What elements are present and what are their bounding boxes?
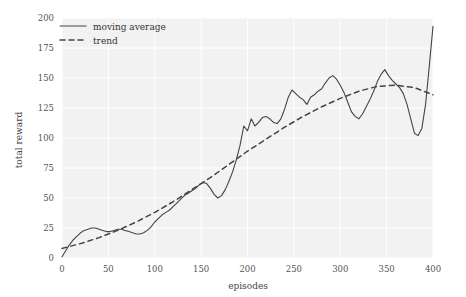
y-tick-label: 150: [38, 73, 54, 83]
y-tick-label: 75: [43, 163, 54, 173]
x-tick-label: 100: [147, 264, 163, 274]
x-tick-label: 250: [286, 264, 302, 274]
x-tick-label: 350: [379, 264, 395, 274]
y-tick-label: 175: [38, 43, 54, 53]
y-tick-label: 25: [43, 223, 54, 233]
reward-line-chart: 050100150200250300350400 025507510012515…: [0, 0, 466, 297]
y-tick-label: 50: [43, 193, 54, 203]
x-tick-label: 50: [103, 264, 114, 274]
y-axis-tick-labels: 0255075100125150175200: [38, 13, 54, 263]
chart-figure: 050100150200250300350400 025507510012515…: [0, 0, 466, 297]
x-tick-label: 150: [193, 264, 209, 274]
legend-label: moving average: [93, 22, 166, 32]
x-tick-label: 400: [425, 264, 441, 274]
x-tick-label: 0: [59, 264, 64, 274]
y-tick-label: 125: [38, 103, 54, 113]
x-tick-label: 300: [332, 264, 348, 274]
x-axis-tick-labels: 050100150200250300350400: [59, 264, 441, 274]
y-tick-label: 100: [38, 133, 54, 143]
legend-label: trend: [93, 36, 118, 46]
x-tick-label: 200: [239, 264, 255, 274]
x-axis-title: episodes: [228, 281, 268, 291]
y-axis-title: total reward: [14, 112, 24, 169]
y-tick-label: 0: [49, 253, 54, 263]
plot-area-wrapper: 050100150200250300350400 025507510012515…: [0, 0, 466, 297]
y-tick-label: 200: [38, 13, 54, 23]
